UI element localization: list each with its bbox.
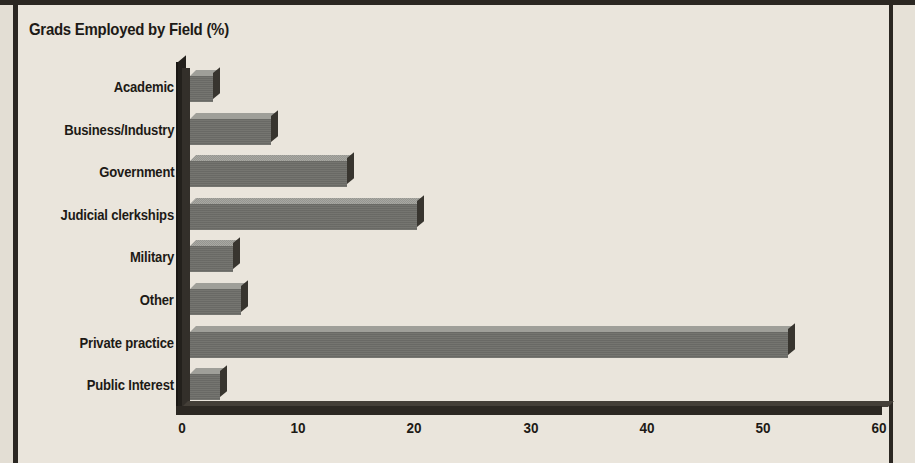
- bar-military: [190, 240, 233, 266]
- category-label-business-industry: Business/Industry: [64, 122, 174, 138]
- x-tick-20: 20: [407, 419, 422, 436]
- bar-front-face: [190, 289, 241, 315]
- y-axis-wall-front: [182, 68, 190, 413]
- bar-business-industry: [190, 113, 271, 139]
- bar-academic: [190, 70, 213, 96]
- bar-chart-plot-area: AcademicBusiness/IndustryGovernmentJudic…: [0, 0, 915, 463]
- bar-end-cap: [213, 67, 220, 99]
- bar-front-face: [190, 161, 347, 187]
- x-tick-0: 0: [178, 419, 186, 436]
- bar-private-practice: [190, 326, 788, 352]
- bar-front-face: [190, 246, 233, 272]
- category-label-academic: Academic: [114, 79, 174, 95]
- bar-end-cap: [233, 238, 240, 270]
- bar-front-face: [190, 204, 417, 230]
- bar-government: [190, 155, 347, 181]
- x-tick-60: 60: [872, 419, 887, 436]
- category-label-other: Other: [140, 292, 174, 308]
- bar-end-cap: [220, 365, 227, 397]
- bar-judicial-clerkships: [190, 198, 417, 224]
- bar-other: [190, 283, 241, 309]
- bar-end-cap: [788, 323, 795, 355]
- scanned-page: Grads Employed by Field (%) AcademicBusi…: [0, 0, 915, 463]
- bar-end-cap: [271, 110, 278, 142]
- bar-front-face: [190, 374, 220, 400]
- category-label-public-interest: Public Interest: [87, 377, 174, 393]
- bar-front-face: [190, 332, 788, 358]
- category-label-military: Military: [130, 249, 174, 265]
- x-tick-50: 50: [755, 419, 770, 436]
- x-axis-line: [176, 406, 882, 415]
- x-tick-30: 30: [523, 419, 538, 436]
- bar-end-cap: [417, 195, 424, 227]
- bar-front-face: [190, 119, 271, 145]
- category-label-judicial-clerkships: Judicial clerkships: [61, 207, 174, 223]
- category-label-private-practice: Private practice: [80, 335, 174, 351]
- bar-public-interest: [190, 368, 220, 394]
- x-tick-10: 10: [291, 419, 306, 436]
- bar-end-cap: [241, 280, 248, 312]
- bar-end-cap: [347, 152, 354, 184]
- x-tick-40: 40: [639, 419, 654, 436]
- category-label-government: Government: [99, 164, 174, 180]
- bar-front-face: [190, 76, 213, 102]
